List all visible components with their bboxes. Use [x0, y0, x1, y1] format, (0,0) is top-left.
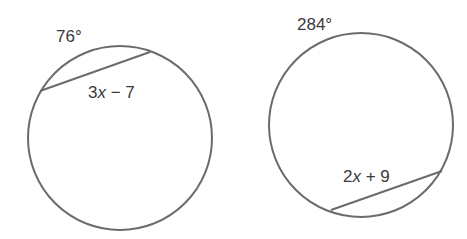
right-circle [269, 33, 453, 217]
right-chord-var: x [352, 167, 361, 186]
right-chord-rest: + 9 [361, 167, 390, 186]
right-chord-expression-label: 2x + 9 [343, 168, 390, 185]
right-arc-measure-label: 284° [297, 16, 332, 33]
left-chord-expression-label: 3x − 7 [88, 84, 135, 101]
left-circle [28, 46, 212, 230]
left-chord-rest: − 7 [106, 83, 135, 102]
left-arc-measure-label: 76° [56, 28, 82, 45]
left-chord-var: x [97, 83, 106, 102]
